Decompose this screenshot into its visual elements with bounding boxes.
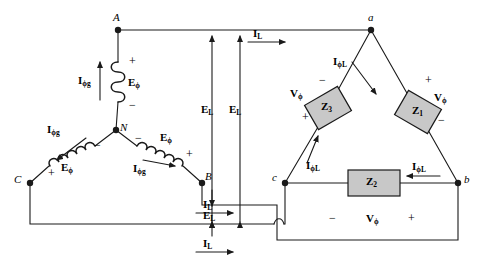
current-arrow-iphig-c [57, 138, 86, 160]
wire-hop [274, 219, 284, 224]
iphil-z3-sub: ϕL [310, 164, 320, 173]
voltage-label-el-right: EL [229, 104, 241, 115]
voltage-label-el-bottom: EL [203, 210, 215, 221]
sign-minus-z1: − [438, 114, 445, 126]
current-label-iphig-c: Iϕg [47, 124, 60, 135]
node-dot-c [282, 180, 288, 186]
ephi-b-sub: ϕ [167, 136, 172, 145]
sign-plus-coil-a: + [129, 55, 136, 67]
node-label-c: c [272, 172, 277, 183]
current-label-iphig-a: Iϕg [78, 75, 91, 86]
iphil-z1-sub: ϕL [337, 60, 347, 69]
iphig-a-sub: ϕg [82, 79, 90, 88]
node-dot-a [368, 27, 374, 33]
z1-sub: 1 [419, 109, 423, 118]
voltage-label-ephi-a: Eϕ [128, 77, 140, 88]
node-label-a: a [368, 12, 374, 23]
il-top-sub: L [257, 32, 262, 41]
current-label-iphil-z1: IϕL [333, 56, 347, 67]
wire-z1-to-b [428, 130, 458, 183]
current-arrow-iphig-b [143, 160, 175, 166]
ephi-a-sub: ϕ [135, 81, 140, 90]
z3-sub: 3 [328, 105, 332, 114]
impedance-label-z1: Z1 [412, 105, 423, 116]
voltage-label-el-left: EL [201, 104, 213, 115]
node-label-A: A [113, 12, 120, 23]
sign-minus-z3: − [319, 74, 326, 86]
current-label-il-bottom: IL [203, 238, 212, 249]
el-right-sub: L [236, 108, 241, 117]
node-label-N: N [120, 122, 127, 133]
voltage-label-ephi-c: Eϕ [61, 162, 73, 173]
sign-minus-coil-c: − [94, 139, 101, 151]
node-label-b: b [464, 174, 470, 185]
vphi-z2-sub: ϕ [374, 217, 379, 226]
wire-a-to-z1 [371, 30, 408, 95]
sign-minus-z2: − [329, 212, 336, 224]
impedance-label-z2: Z2 [366, 176, 377, 187]
circuit-diagram-canvas: A B C N a b c Eϕ + − Iϕg Eϕ − + Iϕg Eϕ −… [0, 0, 483, 264]
voltage-label-vphi-z2: Vϕ [366, 213, 379, 224]
z2-sub: 2 [373, 180, 377, 189]
voltage-label-vphi-z3: Vϕ [290, 88, 303, 99]
sign-plus-z1: + [425, 74, 432, 86]
current-label-iphig-b: Iϕg [133, 163, 146, 174]
voltage-label-ephi-b: Eϕ [160, 132, 172, 143]
impedance-label-z3: Z3 [321, 101, 332, 112]
wire-z3-to-c [285, 127, 318, 183]
node-label-C: C [14, 174, 21, 185]
vphi-z2-main: V [366, 212, 374, 224]
voltage-label-vphi-z1: Vϕ [434, 92, 447, 103]
vphi-z1-main: V [434, 91, 442, 103]
vphi-z3-main: V [290, 87, 298, 99]
iphig-b-sub: ϕg [137, 167, 145, 176]
node-dot-b [455, 180, 461, 186]
node-label-B: B [205, 171, 212, 182]
ephi-c-sub: ϕ [68, 166, 73, 175]
current-label-iphil-z2: IϕL [412, 161, 426, 172]
el-left-sub: L [208, 108, 213, 117]
vphi-z1-sub: ϕ [442, 96, 447, 105]
current-label-il-top: IL [253, 28, 262, 39]
iphil-z2-sub: ϕL [416, 165, 426, 174]
wire-coil-to-n-a [116, 102, 118, 130]
il-bot-sub: L [207, 242, 212, 251]
wire-coil-to-b [183, 166, 202, 183]
sign-plus-coil-c: + [48, 167, 55, 179]
sign-plus-z3: + [302, 111, 309, 123]
line-conductor-middle-part1 [30, 183, 274, 224]
vphi-z3-sub: ϕ [298, 92, 303, 101]
node-dot-A [115, 27, 121, 33]
node-dot-N [113, 127, 119, 133]
sign-minus-coil-a: − [129, 99, 136, 111]
iphig-c-sub: ϕg [51, 128, 59, 137]
sign-plus-coil-b: + [186, 148, 193, 160]
coil-phase-a [111, 62, 125, 102]
line-conductor-middle-part2 [284, 183, 285, 224]
wire-coil-to-c [30, 166, 49, 183]
sign-minus-coil-b: − [135, 132, 142, 144]
current-label-iphil-z3: IϕL [306, 160, 320, 171]
sign-plus-z2: + [408, 212, 415, 224]
node-dot-C [27, 180, 33, 186]
current-arrow-iphil-z1 [352, 62, 376, 94]
el-bot-sub: L [210, 214, 215, 223]
